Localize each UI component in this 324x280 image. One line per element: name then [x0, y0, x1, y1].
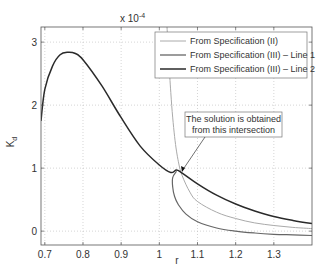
- x-tick-label: 0.8: [76, 249, 90, 260]
- svg-text:Kd: Kd: [5, 137, 18, 148]
- annotation-arrow: [182, 137, 205, 171]
- x-axis-label: r: [175, 255, 179, 266]
- x-tick-label: 1.3: [267, 249, 281, 260]
- x-tick-label: 0.9: [114, 249, 128, 260]
- y-tick-label: 3: [31, 37, 37, 48]
- legend: From Specification (II) From Specificati…: [155, 32, 315, 78]
- annotation-line-2: from this intersection: [192, 125, 275, 135]
- y-scale-note: x 10-4: [120, 12, 145, 24]
- legend-item-spec2: From Specification (II): [190, 36, 278, 46]
- y-tick-label: 0: [31, 226, 37, 237]
- x-tick-label: 1: [157, 249, 163, 260]
- y-axis-label: Kd: [5, 137, 18, 148]
- legend-item-spec3-line1: From Specification (III) – Line 1: [190, 50, 315, 60]
- legend-item-spec3-line2: From Specification (III) – Line 2: [190, 64, 315, 74]
- y-tick-label: 2: [31, 100, 37, 111]
- y-tick-label: 1: [31, 163, 37, 174]
- x-tick-label: 1.2: [229, 249, 243, 260]
- chart: 0.70.80.911.11.21.30123 x 10-4 r Kd From…: [0, 0, 324, 280]
- x-tick-label: 1.1: [191, 249, 205, 260]
- annotation-line-1: The solution is obtained: [186, 114, 281, 124]
- annotation: The solution is obtained from this inter…: [181, 112, 282, 172]
- x-tick-label: 0.7: [38, 249, 52, 260]
